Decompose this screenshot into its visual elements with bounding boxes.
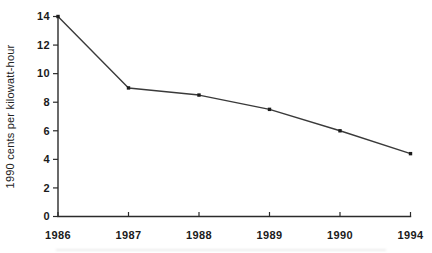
- y-tick-label: 4: [43, 153, 50, 165]
- x-tick-label: 1990: [327, 229, 353, 241]
- y-axis-title: 1990 cents per kilowatt-hour: [4, 44, 16, 188]
- y-tick-label: 10: [37, 67, 50, 79]
- data-point-marker-1990: [338, 129, 341, 132]
- chart-background: [0, 0, 432, 253]
- y-tick-label: 6: [43, 125, 50, 137]
- data-point-marker-1988: [197, 93, 200, 96]
- x-tick-label: 1987: [115, 229, 141, 241]
- y-tick-label: 14: [37, 10, 51, 22]
- x-tick-label: 1988: [186, 229, 212, 241]
- y-tick-label: 12: [37, 39, 50, 51]
- chart-canvas: 024681012141986198719881989199019941990 …: [0, 0, 432, 253]
- y-tick-label: 2: [43, 182, 50, 194]
- x-tick-label: 1989: [256, 229, 282, 241]
- x-tick-label: 1994: [397, 229, 424, 241]
- data-point-marker-1989: [268, 108, 271, 111]
- data-point-marker-1986: [56, 15, 59, 18]
- y-tick-label: 8: [43, 96, 50, 108]
- line-chart-figure: 024681012141986198719881989199019941990 …: [0, 0, 432, 253]
- data-point-marker-1987: [127, 86, 130, 89]
- y-tick-label: 0: [43, 210, 50, 222]
- x-tick-label: 1986: [45, 229, 71, 241]
- data-point-marker-1994: [409, 152, 412, 155]
